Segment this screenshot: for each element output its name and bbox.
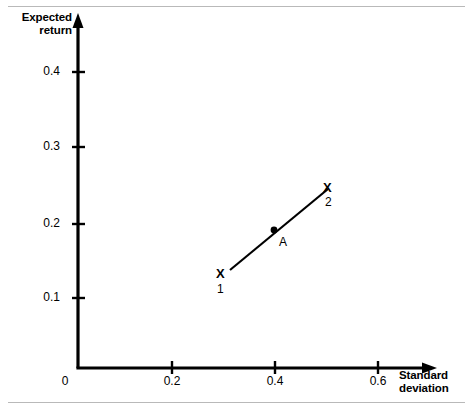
data-point-x1-marker: X [216, 268, 225, 280]
x-axis-title-line1: Standard [399, 369, 448, 381]
bottom-divider-rule [8, 402, 465, 403]
y-axis-title: Expected return [20, 11, 72, 37]
x-axis-title: Standard deviation [399, 369, 469, 395]
data-point-a-label: A [279, 236, 287, 248]
x-tick-label-0: 0 [48, 375, 82, 388]
chart-canvas [0, 0, 473, 417]
x-tick-label-0.6: 0.6 [361, 375, 395, 388]
data-point-x2-marker: X [323, 182, 332, 194]
y-tick-label-0.1: 0.1 [26, 291, 60, 304]
y-axis-arrowhead [73, 13, 84, 28]
figure-container: Expected return Standard deviation 0.4 0… [0, 0, 473, 417]
y-tick-label-0.2: 0.2 [26, 217, 60, 230]
y-tick-label-0.4: 0.4 [26, 65, 60, 78]
data-point-x2-sublabel: 2 [325, 196, 332, 208]
data-point-x1-sublabel: 1 [217, 283, 224, 295]
x-tick-label-0.2: 0.2 [155, 375, 189, 388]
data-point-a-marker [271, 227, 278, 234]
top-divider-rule [8, 6, 465, 7]
data-line-segment [230, 189, 328, 270]
y-axis-title-line2: return [39, 24, 72, 36]
y-axis-title-line1: Expected [22, 11, 72, 23]
x-tick-label-0.4: 0.4 [258, 375, 292, 388]
y-tick-label-0.3: 0.3 [26, 140, 60, 153]
x-axis-title-line2: deviation [399, 382, 449, 394]
